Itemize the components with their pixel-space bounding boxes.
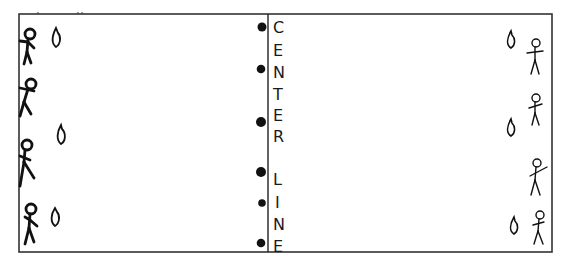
label-letter: R — [273, 127, 284, 146]
label-letter: N — [273, 215, 285, 234]
label-letter: E — [273, 237, 283, 256]
cone-icon — [508, 119, 515, 136]
stick-figure-icon — [20, 140, 34, 186]
dot-marker — [257, 239, 266, 248]
label-letter: I — [275, 193, 280, 212]
dot-marker — [256, 117, 266, 127]
field-boundary — [19, 14, 552, 252]
dot-marker — [258, 23, 267, 32]
cone-icon — [58, 125, 65, 144]
cone-icon — [511, 217, 518, 234]
cone-icon — [53, 28, 60, 47]
stick-figure-icon — [20, 29, 35, 64]
stick-figure-icon — [527, 39, 543, 74]
label-letter: E — [273, 41, 283, 60]
stick-figure-icon — [25, 204, 37, 244]
stick-figure-icon — [530, 159, 547, 195]
dot-marker — [258, 199, 266, 207]
center-line-label: C E N T E R L I N E — [272, 18, 285, 256]
stick-figure-icon — [529, 94, 542, 125]
right-cones — [508, 31, 518, 234]
field-diagram: C E N T E R L I N E — [0, 0, 567, 268]
left-cones — [52, 28, 65, 226]
dot-marker — [256, 167, 266, 177]
cone-icon — [508, 31, 515, 48]
label-letter: E — [273, 106, 283, 125]
stick-figure-icon — [20, 79, 36, 116]
label-letter: L — [273, 170, 282, 189]
center-dots — [256, 23, 267, 248]
label-letter: T — [272, 85, 283, 104]
dot-marker — [257, 65, 266, 74]
label-letter: N — [273, 63, 285, 82]
right-team — [527, 39, 547, 244]
stick-figure-icon — [533, 211, 544, 244]
cone-icon — [52, 208, 59, 226]
label-letter: C — [273, 18, 284, 37]
left-team — [20, 29, 37, 244]
